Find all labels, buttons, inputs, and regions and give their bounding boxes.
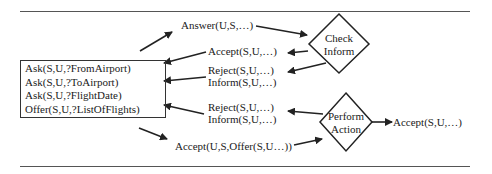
perform-action-label: Perform Action [321,110,371,136]
arrow-acceptoffer-to-perform [294,139,322,145]
arrow-check-to-accept [288,51,308,53]
arrow-reject2-to-box [164,105,204,114]
arrow-box-to-acceptoffer [139,128,167,139]
arrow-reject-to-box [164,77,206,81]
inform-label-1: Inform(S,U,…) [208,76,276,89]
arrow-answer-to-check [256,26,307,35]
system-actions-box: Ask(S,U,?FromAirport) Ask(S,U,?ToAirport… [20,60,166,118]
arrow-box-to-answer [140,32,172,51]
box-line: Offer(S,U,?ListOfFlights) [25,103,161,117]
arrow-accept-to-box [164,52,206,63]
accept-offer-label: Accept(U,S,Offer(S,U…)) [175,140,292,153]
accept-out-label: Accept(S,U,…) [393,116,462,129]
box-line: Ask(S,U,?ToAirport) [25,76,161,90]
arrow-perform-to-reject [288,111,323,114]
inform-label-2: Inform(S,U,…) [208,113,276,126]
answer-label: Answer(U,S,…) [181,19,253,32]
arrow-check-to-reject [288,63,326,72]
box-line: Ask(S,U,?FromAirport) [25,62,161,76]
box-line: Ask(S,U,?FlightDate) [25,89,161,103]
check-inform-label: Check Inform [314,32,364,58]
accept-label-1: Accept(S,U,…) [208,45,277,58]
